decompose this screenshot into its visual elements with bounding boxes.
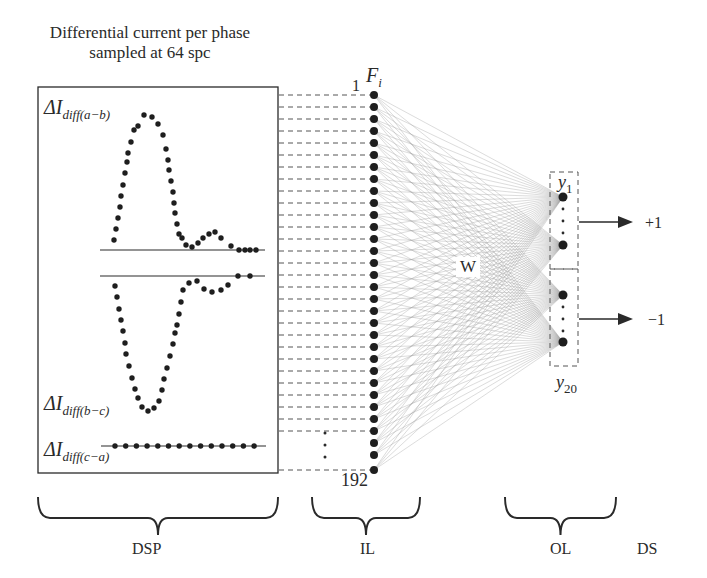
sample-ab bbox=[242, 247, 247, 252]
sample-bc bbox=[174, 322, 179, 327]
arrow-positive-head bbox=[618, 216, 633, 228]
sample-bc bbox=[159, 387, 164, 392]
output-node bbox=[559, 338, 568, 347]
arrow-negative-head bbox=[618, 313, 633, 325]
input-node bbox=[370, 163, 378, 171]
input-node bbox=[370, 211, 378, 219]
sample-bc bbox=[161, 376, 166, 381]
input-node bbox=[370, 187, 378, 195]
sample-bc bbox=[145, 408, 150, 413]
sample-ab bbox=[228, 243, 233, 248]
input-last-index: 192 bbox=[341, 470, 368, 491]
sample-bc bbox=[225, 282, 230, 287]
weight-connections bbox=[374, 95, 563, 470]
sample-ca bbox=[123, 443, 128, 448]
input-node bbox=[370, 199, 378, 207]
sample-ab bbox=[124, 159, 129, 164]
sample-ab bbox=[135, 123, 140, 128]
sample-bc bbox=[116, 306, 121, 311]
sample-bc bbox=[194, 278, 199, 283]
stage-label-il: IL bbox=[360, 540, 375, 558]
sample-ab bbox=[128, 139, 133, 144]
sample-ab bbox=[168, 178, 173, 183]
sample-bc bbox=[126, 363, 131, 368]
sample-bc bbox=[156, 398, 161, 403]
sample-bc bbox=[172, 330, 177, 335]
sample-ab bbox=[171, 200, 176, 205]
sample-bc bbox=[164, 365, 169, 370]
sample-bc bbox=[235, 273, 240, 278]
sample-ca bbox=[230, 443, 235, 448]
weights-label: W bbox=[456, 257, 480, 277]
sample-ab bbox=[120, 182, 125, 187]
sample-bc bbox=[122, 340, 127, 345]
sample-ca bbox=[155, 443, 160, 448]
output-ellipsis-dot bbox=[562, 232, 565, 235]
sample-bc bbox=[129, 375, 134, 380]
feature-label: Fi bbox=[366, 64, 382, 91]
sample-bc bbox=[120, 328, 125, 333]
signal-label-ab: ΔIdiff(a−b) bbox=[44, 96, 110, 123]
sample-ab bbox=[253, 247, 258, 252]
sample-bc bbox=[132, 386, 137, 391]
input-node bbox=[370, 175, 378, 183]
output-group-negative bbox=[550, 269, 578, 366]
sample-ca bbox=[219, 443, 224, 448]
sample-bc bbox=[186, 280, 191, 285]
input-node bbox=[370, 91, 378, 99]
sample-ab bbox=[195, 240, 200, 245]
stage-label-dsp: DSP bbox=[132, 540, 161, 558]
sample-ca bbox=[166, 443, 171, 448]
output-negative: −1 bbox=[648, 311, 665, 329]
sample-bc bbox=[151, 405, 156, 410]
input-node bbox=[370, 319, 378, 327]
sample-bc bbox=[123, 351, 128, 356]
output-ellipsis-dot bbox=[562, 208, 565, 211]
sample-ab bbox=[155, 121, 160, 126]
input-node bbox=[370, 343, 378, 351]
sample-ca bbox=[241, 443, 246, 448]
title-line-1: Differential current per phase bbox=[30, 23, 270, 43]
sample-ab bbox=[212, 229, 217, 234]
sample-bc bbox=[180, 287, 185, 292]
sample-ca bbox=[112, 443, 117, 448]
input-node bbox=[370, 103, 378, 111]
sample-ab bbox=[247, 247, 252, 252]
input-node bbox=[370, 379, 378, 387]
sample-bc bbox=[178, 299, 183, 304]
input-node bbox=[370, 427, 378, 435]
sample-ab bbox=[125, 150, 130, 155]
brace-ol bbox=[505, 497, 616, 535]
sample-bc bbox=[118, 317, 123, 322]
input-node bbox=[370, 259, 378, 267]
input-node bbox=[370, 283, 378, 291]
input-node bbox=[370, 466, 378, 474]
sample-ab bbox=[179, 235, 184, 240]
input-node bbox=[370, 403, 378, 411]
sample-ab bbox=[141, 112, 146, 117]
sample-bc bbox=[112, 283, 117, 288]
sample-ab bbox=[122, 170, 127, 175]
sample-bc bbox=[201, 286, 206, 291]
signal-label-bc: ΔIdiff(b−c) bbox=[44, 392, 109, 419]
input-node bbox=[370, 367, 378, 375]
output-first-label: y1 bbox=[558, 172, 573, 197]
sample-bc bbox=[247, 273, 252, 278]
output-positive: +1 bbox=[645, 214, 662, 232]
sample-ab bbox=[111, 237, 116, 242]
input-node bbox=[370, 439, 378, 447]
sample-bc bbox=[167, 353, 172, 358]
input-node bbox=[370, 151, 378, 159]
input-node bbox=[370, 391, 378, 399]
input-node bbox=[370, 115, 378, 123]
output-last-label: y20 bbox=[556, 372, 577, 397]
input-node bbox=[370, 331, 378, 339]
output-ellipsis-dot bbox=[562, 220, 565, 223]
brace-il bbox=[312, 497, 420, 535]
stage-label-ds: DS bbox=[637, 540, 657, 558]
stage-label-ol: OL bbox=[550, 540, 571, 558]
sample-ab bbox=[113, 226, 118, 231]
figure-title: Differential current per phase sampled a… bbox=[30, 23, 270, 63]
output-ellipsis-dot bbox=[562, 318, 565, 321]
input-node bbox=[370, 355, 378, 363]
